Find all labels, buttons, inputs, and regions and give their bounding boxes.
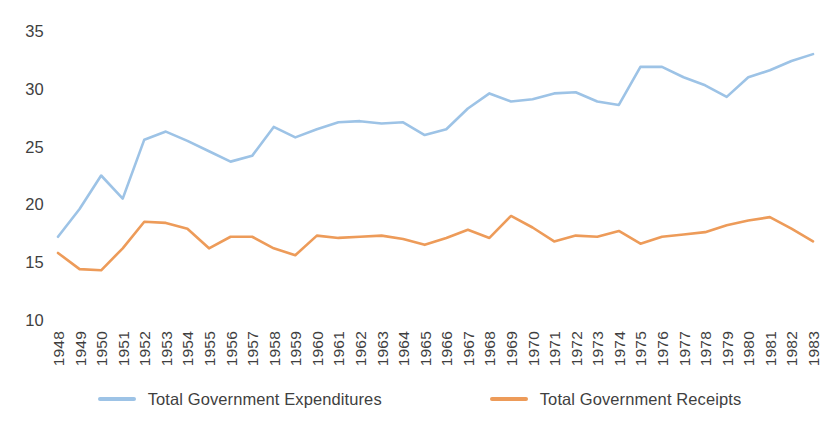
x-tick-label: 1967 (460, 331, 478, 366)
plot-svg (0, 0, 839, 340)
x-tick-label: 1951 (115, 331, 133, 366)
x-tick-label: 1952 (136, 331, 154, 366)
x-tick-label: 1978 (697, 331, 715, 366)
x-tick-label: 1979 (719, 331, 737, 366)
x-tick-label: 1948 (50, 331, 68, 366)
x-axis: 1948194919501951195219531954195519561957… (0, 325, 839, 387)
x-tick-label: 1949 (72, 331, 90, 366)
legend-swatch-icon (490, 397, 528, 401)
x-tick-label: 1966 (438, 331, 456, 366)
x-tick-label: 1969 (503, 331, 521, 366)
x-tick-label: 1973 (589, 331, 607, 366)
legend-swatch-icon (98, 397, 136, 401)
x-tick-label: 1970 (525, 331, 543, 366)
x-tick-label: 1961 (330, 331, 348, 366)
x-tick-label: 1968 (481, 331, 499, 366)
x-tick-label: 1957 (244, 331, 262, 366)
x-tick-label: 1955 (201, 331, 219, 366)
x-tick-label: 1981 (762, 331, 780, 366)
x-tick-label: 1976 (654, 331, 672, 366)
legend-item[interactable]: Total Government Expenditures (98, 390, 382, 409)
x-tick-label: 1956 (223, 331, 241, 366)
x-tick-label: 1953 (158, 331, 176, 366)
x-tick-label: 1965 (417, 331, 435, 366)
x-tick-label: 1954 (179, 331, 197, 366)
x-tick-label: 1971 (546, 331, 564, 366)
x-tick-label: 1959 (287, 331, 305, 366)
x-tick-label: 1980 (740, 331, 758, 366)
x-tick-label: 1958 (266, 331, 284, 366)
legend-label: Total Government Receipts (540, 390, 742, 409)
plot-area (0, 0, 839, 340)
x-tick-label: 1975 (632, 331, 650, 366)
chart-legend: Total Government ExpendituresTotal Gover… (0, 383, 839, 415)
x-tick-label: 1974 (611, 331, 629, 366)
series-line-expenditures (58, 54, 813, 237)
x-tick-label: 1960 (309, 331, 327, 366)
x-tick-label: 1982 (783, 331, 801, 366)
legend-item[interactable]: Total Government Receipts (490, 390, 742, 409)
x-tick-label: 1972 (568, 331, 586, 366)
x-tick-label: 1977 (676, 331, 694, 366)
x-tick-label: 1963 (374, 331, 392, 366)
x-tick-label: 1964 (395, 331, 413, 366)
x-tick-label: 1962 (352, 331, 370, 366)
x-tick-label: 1983 (805, 331, 823, 366)
line-chart: 101520253035 194819491950195119521953195… (0, 0, 839, 435)
x-tick-label: 1950 (93, 331, 111, 366)
legend-label: Total Government Expenditures (148, 390, 382, 409)
series-line-receipts (58, 216, 813, 270)
